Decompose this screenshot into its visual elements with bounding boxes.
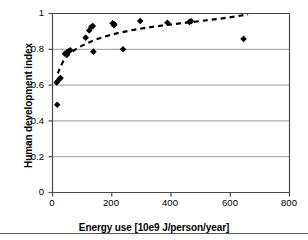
xtick-label: 200 [94,197,128,208]
y-axis-title: Human development index [23,16,34,196]
xtick-label: 400 [153,197,187,208]
figure-container: 1 0.8 0.6 0.4 0.2 0 0 200 400 600 800 En… [0,0,308,240]
figure-bottom-rule [0,233,308,234]
xtick-label: 800 [272,197,306,208]
xtick-label: 600 [213,197,247,208]
plot-area-background [52,13,289,192]
x-axis-title: Energy use [10e9 J/person/year] [0,222,308,233]
xtick-label: 0 [35,197,69,208]
